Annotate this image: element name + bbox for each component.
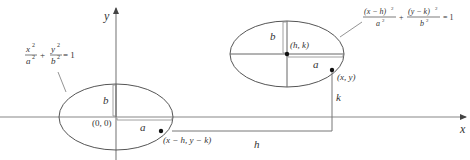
point-xy: [330, 68, 334, 72]
right-semi-minor-label: b: [270, 30, 276, 42]
x-axis-label: x: [459, 122, 466, 136]
svg-text:2: 2: [32, 54, 35, 60]
svg-text:(x − h): (x − h): [364, 7, 387, 16]
svg-text:2: 2: [435, 6, 438, 11]
svg-text:x: x: [25, 44, 30, 54]
svg-text:2: 2: [426, 18, 429, 23]
right-center-label: (h, k): [290, 40, 309, 50]
svg-text:a: a: [376, 19, 380, 28]
svg-text:2: 2: [32, 42, 35, 48]
k-label: k: [336, 91, 342, 103]
y-axis-label: y: [103, 9, 110, 23]
point-shifted: [159, 129, 163, 133]
svg-text:b: b: [51, 56, 56, 66]
ellipse-translation-diagram: x y b a (0, 0) x 2 a 2 + y 2 b 2 = 1 b a: [0, 0, 470, 160]
svg-text:+: +: [40, 50, 45, 60]
svg-text:2: 2: [391, 6, 394, 11]
svg-text:b: b: [420, 19, 424, 28]
svg-text:+: +: [399, 13, 404, 22]
svg-text:= 1: = 1: [443, 13, 454, 22]
right-center-point: [285, 52, 289, 56]
left-ellipse-equation: x 2 a 2 + y 2 b 2 = 1: [25, 42, 75, 92]
right-ellipse: b a (h, k): [230, 21, 344, 87]
svg-text:a: a: [26, 56, 31, 66]
right-ellipse-equation: (x − h) 2 a 2 + (y − k) 2 b 2 = 1: [340, 6, 454, 37]
svg-text:y: y: [50, 44, 55, 54]
svg-text:2: 2: [57, 54, 60, 60]
svg-text:(y − k): (y − k): [408, 7, 430, 16]
h-label: h: [254, 138, 260, 150]
svg-text:2: 2: [57, 42, 60, 48]
left-semi-minor-label: b: [103, 94, 109, 106]
point-xy-label: (x, y): [337, 72, 355, 82]
left-center-label: (0, 0): [92, 118, 112, 128]
left-semi-major-label: a: [140, 121, 146, 133]
point-shifted-label: (x − h, y − k): [163, 135, 211, 145]
svg-text:= 1: = 1: [63, 50, 75, 60]
right-semi-major-label: a: [313, 58, 319, 70]
svg-text:2: 2: [382, 18, 385, 23]
